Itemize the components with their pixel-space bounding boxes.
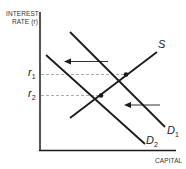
d1-curve-label: D1 (167, 124, 179, 138)
supply-curve-label: S (158, 38, 165, 50)
r2-label: r2 (28, 87, 36, 101)
y-axis-label-line1: INTEREST (6, 10, 38, 18)
y-axis-label: INTEREST RATE (r) (6, 10, 38, 26)
equilibrium-point-1 (124, 72, 129, 77)
x-axis-label: CAPITAL (155, 157, 182, 165)
demand-curve-d2 (46, 55, 145, 144)
r1-label: r1 (28, 66, 36, 80)
d2-curve-label: D2 (146, 134, 158, 148)
demand-curve-d1 (70, 32, 165, 127)
y-axis-label-line2: RATE (r) (6, 18, 38, 26)
equilibrium-point-2 (99, 93, 104, 98)
